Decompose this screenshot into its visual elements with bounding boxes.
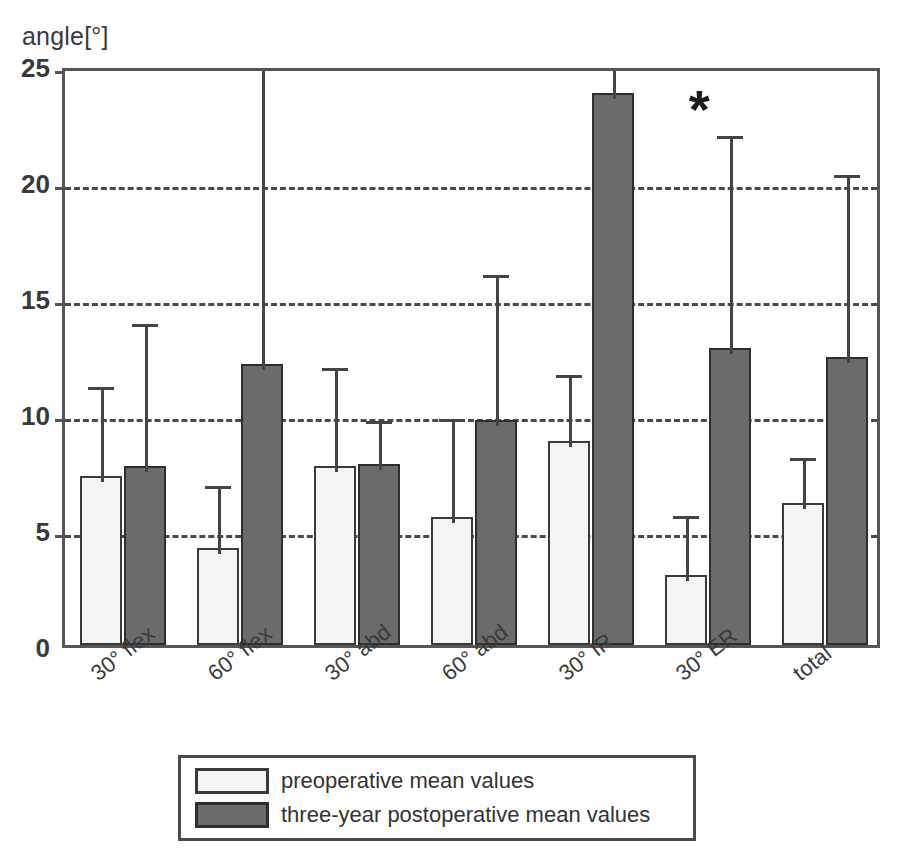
error-bar-pre-6 bbox=[803, 458, 806, 509]
legend-item-preoperative: preoperative mean values bbox=[195, 764, 693, 798]
error-cap-pre-4 bbox=[556, 375, 582, 378]
bar-postoperative-2 bbox=[358, 464, 400, 645]
legend-label-postoperative: three-year postoperative mean values bbox=[281, 802, 650, 828]
bar-postoperative-0 bbox=[124, 466, 166, 645]
gridline-10 bbox=[65, 419, 877, 422]
bar-postoperative-3 bbox=[475, 420, 517, 645]
legend-label-preoperative: preoperative mean values bbox=[281, 768, 534, 794]
error-bar-pre-0 bbox=[101, 387, 104, 482]
bar-preoperative-0 bbox=[80, 476, 122, 645]
y-tick-label-0: 0 bbox=[0, 633, 50, 664]
bar-preoperative-5 bbox=[665, 575, 707, 645]
error-cap-pre-6 bbox=[790, 458, 816, 461]
chart-legend: preoperative mean values three-year post… bbox=[178, 755, 696, 841]
error-cap-pre-5 bbox=[673, 516, 699, 519]
bar-chart-figure: angle[°] 0510152025 30° flex60° flex30° … bbox=[0, 0, 910, 859]
y-tick-mark-5 bbox=[55, 535, 65, 538]
bar-postoperative-4 bbox=[592, 93, 634, 645]
bar-postoperative-6 bbox=[826, 357, 868, 645]
plot-inner-surface bbox=[65, 71, 877, 645]
error-bar-post-3 bbox=[496, 275, 499, 426]
plot-area bbox=[62, 68, 880, 648]
y-tick-mark-15 bbox=[55, 303, 65, 306]
bar-preoperative-4 bbox=[548, 441, 590, 645]
error-bar-post-6 bbox=[847, 175, 850, 363]
y-tick-mark-10 bbox=[55, 419, 65, 422]
error-bar-post-4 bbox=[613, 71, 616, 99]
error-bar-pre-3 bbox=[452, 419, 455, 523]
y-tick-label-10: 10 bbox=[0, 401, 50, 432]
error-cap-post-0 bbox=[132, 324, 158, 327]
error-bar-pre-4 bbox=[569, 375, 572, 447]
error-cap-pre-2 bbox=[322, 368, 348, 371]
error-bar-post-5 bbox=[730, 136, 733, 354]
light-swatch-icon bbox=[195, 768, 269, 794]
y-tick-mark-20 bbox=[55, 187, 65, 190]
gridline-20 bbox=[65, 187, 877, 190]
error-cap-pre-1 bbox=[205, 486, 231, 489]
bar-preoperative-6 bbox=[782, 503, 824, 645]
significance-asterisk: * bbox=[689, 82, 710, 136]
error-bar-post-1 bbox=[262, 71, 265, 370]
y-tick-mark-25 bbox=[55, 71, 65, 74]
y-tick-label-15: 15 bbox=[0, 285, 50, 316]
error-cap-post-3 bbox=[483, 275, 509, 278]
error-bar-pre-2 bbox=[335, 368, 338, 472]
y-tick-label-20: 20 bbox=[0, 169, 50, 200]
bar-postoperative-1 bbox=[241, 364, 283, 645]
error-cap-post-5 bbox=[717, 136, 743, 139]
error-bar-pre-1 bbox=[218, 486, 221, 553]
y-tick-label-25: 25 bbox=[0, 53, 50, 84]
error-cap-post-6 bbox=[834, 175, 860, 178]
gridline-15 bbox=[65, 303, 877, 306]
error-bar-post-0 bbox=[145, 324, 148, 472]
bar-preoperative-3 bbox=[431, 517, 473, 645]
error-bar-pre-5 bbox=[686, 516, 689, 581]
error-cap-pre-0 bbox=[88, 387, 114, 390]
error-cap-pre-3 bbox=[439, 419, 465, 422]
bar-preoperative-1 bbox=[197, 548, 239, 645]
bar-postoperative-5 bbox=[709, 348, 751, 645]
error-cap-post-2 bbox=[366, 421, 392, 424]
dark-swatch-icon bbox=[195, 802, 269, 828]
legend-item-postoperative: three-year postoperative mean values bbox=[195, 798, 693, 832]
error-bar-post-2 bbox=[379, 421, 382, 470]
y-tick-label-5: 5 bbox=[0, 517, 50, 548]
y-axis-label: angle[°] bbox=[22, 22, 109, 51]
bar-preoperative-2 bbox=[314, 466, 356, 645]
